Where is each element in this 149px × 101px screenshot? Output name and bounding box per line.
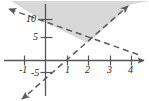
x-tick-label-2: 2 [85,65,90,75]
x-tick-label-3: 3 [107,65,112,75]
coordinate-plane-svg [0,0,149,101]
y-tick-label-5: 5 [33,32,38,42]
y-tick-label-neg5: -5 [31,68,39,78]
x-tick-label-4: 4 [128,65,133,75]
boundary-line-increasing [22,95,27,99]
x-tick-label-1: 1 [65,65,70,75]
y-tick-label-10: 10 [26,14,36,24]
x-tick-label-neg1: -1 [19,65,27,75]
inequality-graph-figure: 10 5 -5 -1 1 2 3 4 [0,0,149,101]
